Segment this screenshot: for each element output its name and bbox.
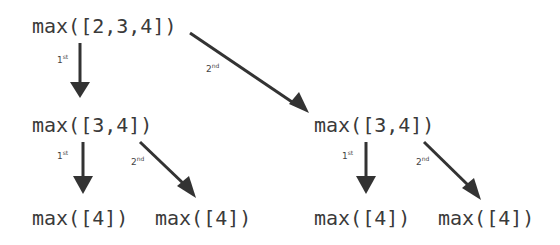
- node-left: max([3,4]): [32, 113, 152, 137]
- node-left-right: max([4]): [155, 206, 251, 230]
- label-root-second: 2nd: [206, 62, 219, 74]
- node-right-left: max([4]): [314, 206, 410, 230]
- node-left-left: max([4]): [32, 206, 128, 230]
- node-right: max([3,4]): [314, 113, 434, 137]
- arrow-right-second: [424, 142, 470, 187]
- recursion-tree-diagram: max([2,3,4]) max([3,4]) max([3,4]) max([…: [0, 0, 560, 245]
- label-left-first: 1st: [57, 149, 68, 161]
- label-right-first: 1st: [342, 149, 353, 161]
- label-root-first: 1st: [57, 53, 68, 65]
- arrow-left-second: [140, 142, 185, 185]
- node-right-right: max([4]): [438, 206, 534, 230]
- label-left-second: 2nd: [131, 155, 144, 167]
- node-root: max([2,3,4]): [32, 14, 177, 38]
- label-right-second: 2nd: [416, 155, 429, 167]
